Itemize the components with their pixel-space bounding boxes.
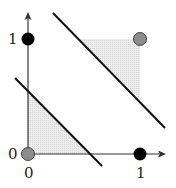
- point-0-0-gray: [22, 148, 35, 161]
- xor-diagram: 1 0 0 1: [0, 0, 176, 188]
- x-tick-label-1: 1: [136, 164, 146, 182]
- point-1-1-gray: [134, 33, 147, 46]
- point-1-0-black: [134, 148, 147, 161]
- y-tick-label-0: 0: [8, 145, 18, 163]
- decision-line-upper: [53, 13, 165, 128]
- y-tick-label-1: 1: [8, 30, 18, 48]
- shaded-region-upper: [80, 39, 140, 100]
- x-tick-label-0: 0: [24, 164, 34, 182]
- point-0-1-black: [22, 33, 35, 46]
